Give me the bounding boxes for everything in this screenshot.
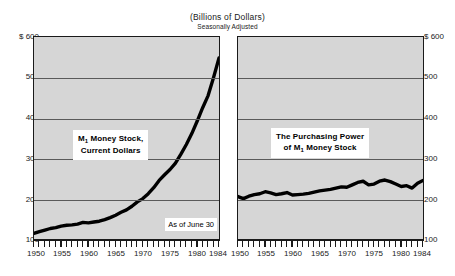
y-axis-right-label-400: 400 [424, 114, 437, 122]
x-axis-right-label-1950: 1950 [231, 250, 249, 258]
x-tick-1960 [87, 240, 88, 247]
x-tick-1952 [248, 240, 249, 247]
annotation-right-line2: of M1 Money Stock [284, 143, 357, 152]
gridline-500 [238, 78, 423, 79]
figure-title: (Billions of Dollars) [0, 12, 455, 22]
x-tick-1964 [109, 240, 110, 247]
x-tick-1981 [202, 240, 203, 247]
x-axis-left-label-1960: 1960 [80, 250, 98, 258]
x-tick-1976 [174, 240, 175, 247]
gridline-200 [34, 200, 219, 201]
x-tick-1969 [136, 240, 137, 247]
x-tick-1977 [180, 240, 181, 247]
x-tick-1958 [77, 240, 78, 247]
x-tick-1980 [196, 240, 197, 247]
x-tick-1973 [362, 240, 363, 247]
x-tick-1972 [153, 240, 154, 247]
x-tick-1984 [218, 240, 219, 247]
x-tick-1970 [346, 240, 347, 247]
x-axis-right-label-1965: 1965 [311, 250, 329, 258]
x-tick-1955 [60, 240, 61, 247]
x-tick-1971 [147, 240, 148, 247]
x-tick-1966 [324, 240, 325, 247]
gridline-400 [34, 119, 219, 120]
x-tick-1982 [411, 240, 412, 247]
x-tick-1978 [389, 240, 390, 247]
x-tick-1977 [384, 240, 385, 247]
x-tick-1952 [44, 240, 45, 247]
x-tick-1966 [120, 240, 121, 247]
gridline-500 [34, 78, 219, 79]
x-axis-right-label-1975: 1975 [365, 250, 383, 258]
x-tick-1983 [417, 240, 418, 247]
x-tick-1965 [319, 240, 320, 247]
x-axis-tickrail-right [237, 240, 424, 247]
x-tick-1954 [55, 240, 56, 247]
x-tick-1956 [270, 240, 271, 247]
x-tick-1962 [98, 240, 99, 247]
x-tick-1958 [281, 240, 282, 247]
x-tick-1968 [335, 240, 336, 247]
x-tick-1967 [330, 240, 331, 247]
chart-panel-m1-purchasing-power: The Purchasing Power of M1 Money Stock [237, 36, 424, 240]
x-tick-1981 [406, 240, 407, 247]
x-axis-left-label-1980: 1980 [188, 250, 206, 258]
annotation-right-line1: The Purchasing Power [276, 132, 364, 141]
x-tick-1961 [93, 240, 94, 247]
annotation-m1-current-dollars: M1 Money Stock, Current Dollars [73, 130, 148, 160]
x-tick-1955 [264, 240, 265, 247]
x-tick-1974 [368, 240, 369, 247]
x-axis-tickrail-left [33, 240, 220, 247]
x-tick-1965 [115, 240, 116, 247]
x-tick-1971 [351, 240, 352, 247]
x-tick-1961 [297, 240, 298, 247]
x-tick-1951 [38, 240, 39, 247]
x-tick-1979 [191, 240, 192, 247]
x-tick-1978 [185, 240, 186, 247]
gridline-300 [238, 159, 423, 160]
x-tick-1964 [313, 240, 314, 247]
x-tick-1957 [275, 240, 276, 247]
money-stock-chart-figure: (Billions of Dollars) Seasonally Adjuste… [0, 0, 455, 276]
x-tick-1953 [49, 240, 50, 247]
annotation-left-line2: Current Dollars [81, 146, 141, 155]
x-axis-left-label-1984: 1984 [209, 250, 227, 258]
annotation-m1-purchasing-power: The Purchasing Power of M1 Money Stock [271, 128, 369, 158]
x-tick-1953 [253, 240, 254, 247]
x-tick-1970 [142, 240, 143, 247]
x-tick-1957 [71, 240, 72, 247]
x-tick-1983 [213, 240, 214, 247]
x-tick-1950 [237, 240, 238, 247]
x-tick-1959 [82, 240, 83, 247]
x-tick-1968 [131, 240, 132, 247]
y-axis-right-label-200: 200 [424, 196, 437, 204]
gridline-400 [238, 119, 423, 120]
figure-title-block: (Billions of Dollars) Seasonally Adjuste… [0, 12, 455, 31]
y-axis-right-label-500: 500 [424, 73, 437, 81]
x-tick-1975 [169, 240, 170, 247]
x-tick-1959 [286, 240, 287, 247]
x-tick-1974 [164, 240, 165, 247]
x-tick-1960 [291, 240, 292, 247]
x-tick-1980 [400, 240, 401, 247]
figure-subtitle: Seasonally Adjusted [0, 22, 455, 31]
x-tick-1954 [259, 240, 260, 247]
x-axis-right-label-1984: 1984 [413, 250, 431, 258]
x-tick-1972 [357, 240, 358, 247]
x-axis-right-label-1955: 1955 [257, 250, 275, 258]
x-tick-1963 [308, 240, 309, 247]
x-axis-left-label-1970: 1970 [134, 250, 152, 258]
x-tick-1963 [104, 240, 105, 247]
x-tick-1976 [378, 240, 379, 247]
x-axis-right-label-1960: 1960 [284, 250, 302, 258]
x-axis-left-label-1950: 1950 [27, 250, 45, 258]
x-axis-right-label-1970: 1970 [338, 250, 356, 258]
y-axis-right-label-600: $ 600 [424, 33, 444, 41]
x-tick-1962 [302, 240, 303, 247]
gridline-200 [238, 200, 423, 201]
y-axis-right-label-300: 300 [424, 155, 437, 163]
x-axis-left-label-1975: 1975 [161, 250, 179, 258]
y-axis-right-label-100: 100 [424, 236, 437, 244]
x-tick-1969 [340, 240, 341, 247]
as-of-note: As of June 30 [165, 218, 217, 231]
